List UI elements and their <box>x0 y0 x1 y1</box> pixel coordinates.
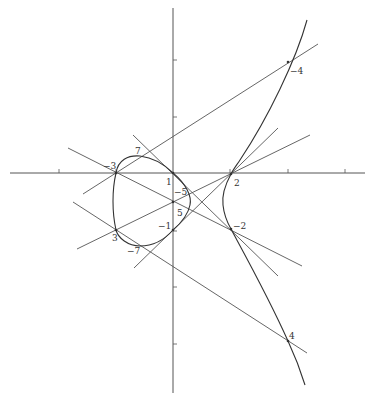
cubic-diagram: −371−55−13−72−2−44 <box>0 0 385 403</box>
line-through-4 <box>73 202 307 353</box>
point-axis-mid <box>172 201 175 204</box>
line-through-3-2 <box>77 135 310 249</box>
curves <box>113 20 307 385</box>
point-3 <box>115 229 118 232</box>
point-label: −3 <box>103 161 117 171</box>
point-label: 7 <box>135 146 141 156</box>
point-label: −4 <box>290 66 304 76</box>
point-minus2 <box>230 228 233 231</box>
line-through-minus1-2 <box>134 128 278 268</box>
point-label: 5 <box>177 208 183 218</box>
point-label: −5 <box>174 187 188 197</box>
point-label: 2 <box>234 178 240 188</box>
point-minus4 <box>287 61 290 64</box>
point-label: −2 <box>233 221 246 231</box>
point-label: 4 <box>289 331 295 341</box>
lines <box>68 44 318 353</box>
left-oval <box>113 156 190 246</box>
axes <box>10 8 365 393</box>
point-label: −1 <box>158 221 171 231</box>
point-minus1 <box>172 229 175 232</box>
point-label: −7 <box>127 246 141 256</box>
point-label: 1 <box>166 177 172 187</box>
point-label: 3 <box>112 233 118 243</box>
diagram-canvas: −371−55−13−72−2−44 <box>0 0 385 403</box>
line-through-minus3-minus4 <box>83 44 318 194</box>
point-1 <box>172 172 175 175</box>
point-minus3 <box>115 172 118 175</box>
point-2 <box>230 173 233 176</box>
